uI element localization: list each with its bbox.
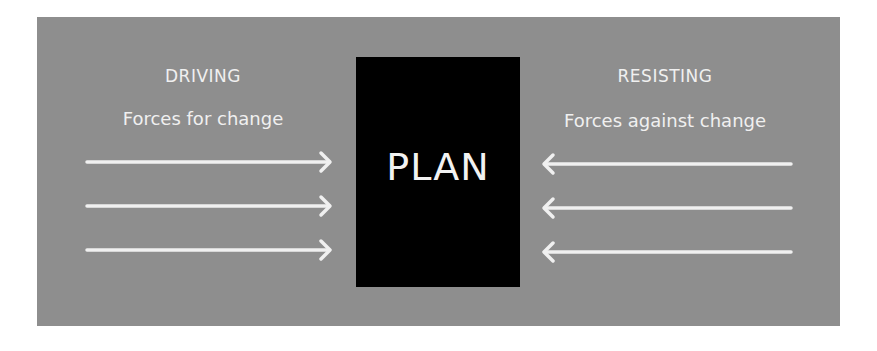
resisting-arrow-icon <box>544 155 791 173</box>
force-arrows <box>0 0 877 351</box>
driving-arrow-icon <box>87 153 330 171</box>
driving-arrow-icon <box>87 241 330 259</box>
resisting-arrow-icon <box>544 243 791 261</box>
resisting-arrow-icon <box>544 199 791 217</box>
driving-arrow-icon <box>87 197 330 215</box>
